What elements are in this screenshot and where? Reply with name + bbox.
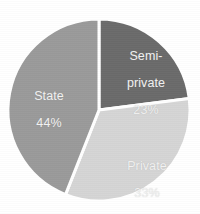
pie-slice-semi-private[interactable] — [99, 19, 189, 110]
pie-chart: Semi- private 23% Private 33% State 44% — [0, 0, 200, 214]
pie-chart-canvas — [0, 0, 200, 214]
pie-slices-group — [8, 19, 190, 201]
